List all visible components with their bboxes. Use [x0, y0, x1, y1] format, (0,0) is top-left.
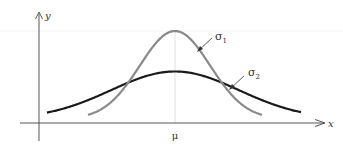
mean-label: μ [172, 130, 179, 141]
y-axis-label: y [44, 10, 51, 21]
sigma1-label: σ1 [215, 30, 227, 45]
normal-distribution-diagram: y x μ σ1 σ2 [0, 0, 343, 145]
x-axis-label: x [328, 118, 334, 129]
sigma2-label: σ2 [248, 66, 260, 81]
curve-sigma2 [47, 71, 301, 112]
